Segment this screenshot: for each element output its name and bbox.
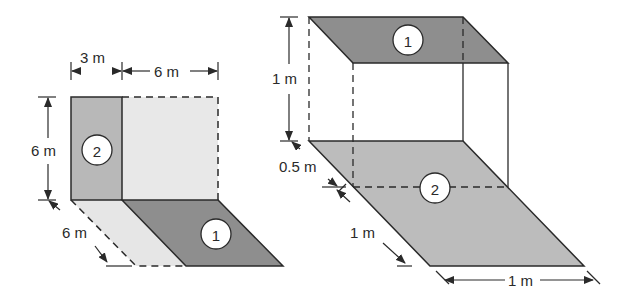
surface-1-marker-right: 1 — [393, 25, 423, 55]
view-factor-diagram: 2 1 3 m 6 m 6 m — [0, 0, 627, 303]
surface-1-label-right: 1 — [404, 33, 412, 50]
surface-2-marker: 2 — [82, 135, 112, 165]
dim-width-large: 6 m — [154, 63, 179, 80]
surface-2-label-right: 2 — [431, 181, 439, 198]
surface-2-floor — [309, 141, 584, 266]
projected-wall-area — [122, 97, 218, 200]
dim-height: 6 m — [31, 142, 56, 159]
dim-depth: 6 m — [62, 224, 87, 241]
left-figure: 2 1 3 m 6 m 6 m — [31, 49, 283, 266]
dim-width-small: 3 m — [80, 49, 105, 66]
surface-1-marker: 1 — [201, 219, 231, 249]
dim-height-right: 1 m — [272, 70, 297, 87]
right-figure: 1 2 1 m 0.5 m 1 m — [272, 17, 600, 289]
dim-offset: 0.5 m — [279, 158, 317, 175]
surface-2-label: 2 — [93, 143, 101, 160]
dim-depth-right: 1 m — [350, 224, 375, 241]
surface-2-marker-right: 2 — [420, 173, 450, 203]
surface-1-label: 1 — [212, 227, 220, 244]
dim-width-right: 1 m — [508, 272, 533, 289]
